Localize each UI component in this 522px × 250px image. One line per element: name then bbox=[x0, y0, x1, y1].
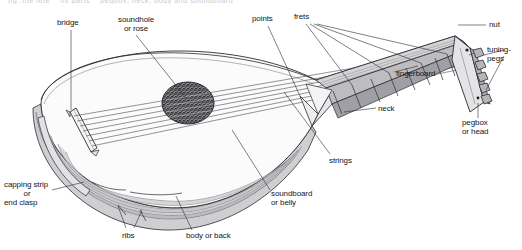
label-frets: frets bbox=[294, 12, 309, 21]
soundhole-rose bbox=[162, 82, 214, 124]
pegbox-hole-2 bbox=[477, 97, 480, 100]
label-nut: nut bbox=[489, 20, 500, 29]
leader-frets-4 bbox=[317, 24, 447, 54]
label-tuning-pegs: tuning-pegs bbox=[487, 45, 511, 63]
label-strings: strings bbox=[329, 156, 352, 165]
label-body-or-back: body or back bbox=[186, 231, 231, 240]
label-bridge: bridge bbox=[57, 18, 79, 27]
lute-diagram-figure: fig. the lute its parts pegbox, neck, bo… bbox=[0, 0, 522, 250]
label-soundhole: soundholeor rose bbox=[105, 15, 167, 33]
pegbox-hole bbox=[465, 48, 468, 51]
label-fingerboard: fingerboard bbox=[396, 69, 435, 78]
lute-body-group bbox=[33, 36, 492, 230]
label-pegbox: pegboxor head bbox=[462, 118, 488, 136]
label-soundboard: soundboardor belly bbox=[271, 189, 312, 207]
lute-illustration bbox=[0, 0, 522, 250]
label-ribs: ribs bbox=[122, 231, 135, 240]
label-points: points bbox=[252, 14, 273, 23]
label-capping-strip: capping striporend clasp bbox=[4, 180, 50, 208]
label-neck: neck bbox=[378, 104, 395, 113]
leader-frets-3 bbox=[314, 24, 421, 63]
